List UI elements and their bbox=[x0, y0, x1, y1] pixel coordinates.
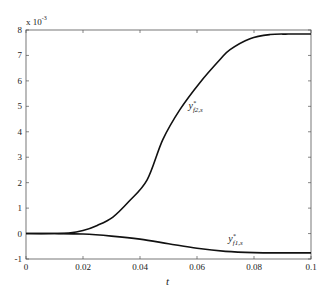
x-tick-labels: 00.020.040.060.080.1 bbox=[24, 262, 317, 272]
line-chart: 00.020.040.060.080.1 -1012345678 x 10-3 … bbox=[0, 0, 330, 295]
y-tick-label: 1 bbox=[18, 203, 23, 213]
x-tick-label: 0.08 bbox=[246, 262, 262, 272]
y-tick-label: 0 bbox=[18, 229, 23, 239]
y-tick-label: 4 bbox=[18, 127, 23, 137]
y-tick-label: 8 bbox=[18, 25, 23, 35]
x-axis-label: t bbox=[166, 275, 170, 287]
x-tick-label: 0.1 bbox=[305, 262, 316, 272]
y-tick-label: 6 bbox=[18, 76, 23, 86]
y-tick-label: 2 bbox=[18, 178, 23, 188]
x-tick-label: 0 bbox=[24, 262, 29, 272]
x-tick-label: 0.06 bbox=[189, 262, 205, 272]
y-tick-label: 5 bbox=[18, 101, 23, 111]
y-tick-label: 3 bbox=[18, 152, 23, 162]
y-multiplier-label: x 10-3 bbox=[26, 15, 47, 27]
y-tick-label: 7 bbox=[18, 50, 23, 60]
y-tick-label: -1 bbox=[15, 254, 23, 264]
y-tick-labels: -1012345678 bbox=[15, 25, 23, 264]
x-tick-label: 0.02 bbox=[75, 262, 91, 272]
x-tick-label: 0.04 bbox=[132, 262, 148, 272]
plot-area bbox=[26, 30, 311, 259]
